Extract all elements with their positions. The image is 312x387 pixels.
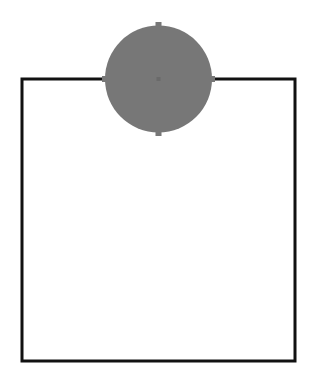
tick-top <box>156 22 162 27</box>
tick-right <box>210 76 215 82</box>
circle-center-dot <box>157 77 161 81</box>
diagram-canvas <box>0 0 312 387</box>
tick-bottom <box>156 131 162 136</box>
tick-left <box>102 76 107 82</box>
